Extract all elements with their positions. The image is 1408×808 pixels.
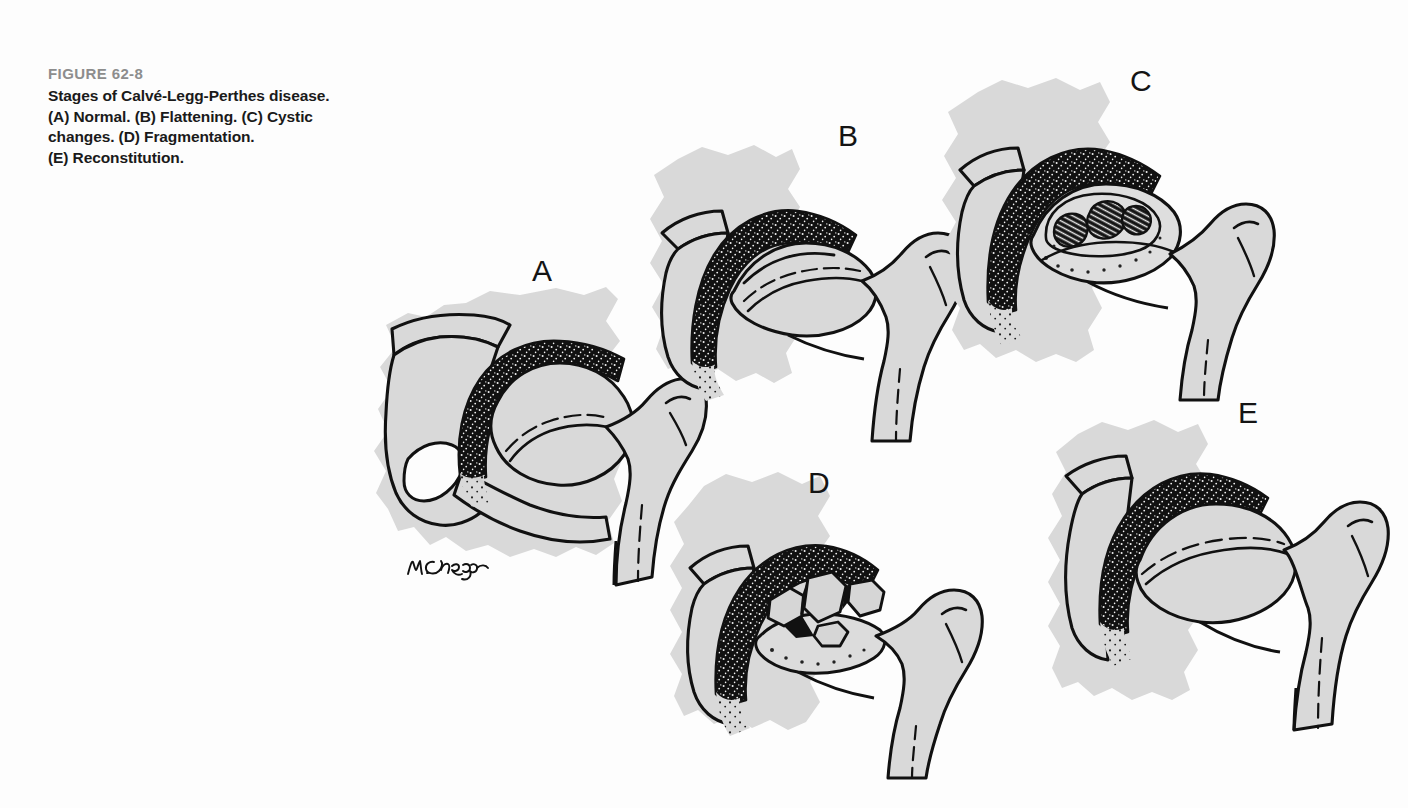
caption-line-1: Stages of Calvé-Legg-Perthes disease.	[48, 86, 378, 107]
caption-line-2: (A) Normal. (B) Flattening. (C) Cystic	[48, 107, 378, 128]
panel-label-b: B	[838, 121, 858, 151]
panel-e-illustration	[1048, 398, 1393, 738]
panel-d-illustration	[668, 450, 1013, 780]
cystic-lesion-1-c	[1054, 214, 1088, 247]
femur-bone-e	[1284, 502, 1388, 730]
neck-cortex-b	[788, 335, 864, 359]
bone-fragment-3-d	[848, 580, 884, 616]
figure-caption-block: FIGURE 62-8 Stages of Calvé-Legg-Perthes…	[48, 64, 378, 168]
artist-signature: M. Cramp	[404, 548, 494, 582]
panel-label-d: D	[808, 468, 830, 498]
figure-page: FIGURE 62-8 Stages of Calvé-Legg-Perthes…	[0, 0, 1408, 808]
panel-label-c: C	[1130, 66, 1152, 96]
femur-bone-c	[1170, 204, 1274, 400]
cystic-lesion-3-c	[1122, 206, 1151, 234]
panel-b-illustration	[648, 115, 988, 445]
panel-label-e: E	[1238, 398, 1258, 428]
figure-number: FIGURE 62-8	[48, 64, 378, 84]
cystic-lesion-2-c	[1087, 201, 1126, 238]
panel-c-cystic-changes: C	[938, 62, 1283, 402]
panel-e-reconstitution: E	[1048, 398, 1393, 738]
panel-d-fragmentation: D	[668, 450, 1013, 780]
caption-line-4: (E) Reconstitution.	[48, 148, 378, 169]
panel-b-flattening: B	[648, 115, 988, 445]
bone-fragment-4-d	[814, 622, 848, 646]
femur-bone-d	[876, 590, 982, 778]
panel-c-illustration	[938, 62, 1283, 402]
panel-label-a: A	[532, 256, 552, 286]
caption-line-3: changes. (D) Fragmentation.	[48, 127, 378, 148]
figure-caption-text: Stages of Calvé-Legg-Perthes disease. (A…	[48, 86, 378, 168]
neck-cortex-e	[1200, 622, 1280, 652]
